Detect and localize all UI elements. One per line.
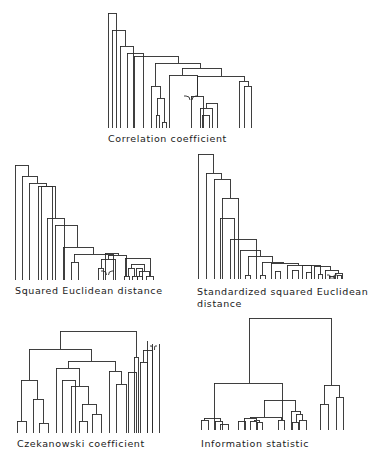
caption-squared-euclidean-distance: Squared Euclidean distance [15,285,163,296]
caption-czekanowski-coefficient: Czekanowski coefficient [17,438,145,449]
dendrogram-squared-euclidean-distance [15,165,153,280]
caption-standardized-distance-line2: distance [197,298,242,309]
dendrogram-correlation-coefficient [108,13,251,128]
caption-information-statistic: Information statistic [201,438,309,449]
dendrogram-information-statistic [201,318,343,430]
dendrogram-figure [0,0,373,456]
caption-correlation-coefficient: Correlation coefficient [108,133,227,144]
dendrogram-standardized-squared-euclidean-distance [198,154,342,279]
caption-standardized-squared-euclidean: Standardized squared Euclidean [197,286,368,297]
dendrogram-czekanowski-coefficient [17,331,159,433]
